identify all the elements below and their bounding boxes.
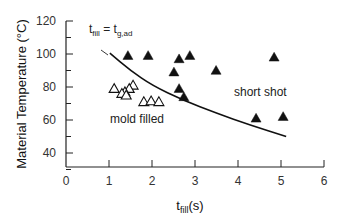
curve-pointer-arrow-icon (101, 50, 108, 55)
x-tick-label: 4 (235, 174, 242, 188)
short-shot-marker (211, 66, 221, 75)
mold-filled-label: mold filled (110, 112, 164, 126)
short-shot-label: short shot (234, 85, 287, 99)
short-shot-marker (278, 112, 288, 121)
short-shot-marker (174, 84, 184, 93)
short-shot-marker (185, 51, 195, 60)
y-axis-title: Material Temperature (°C) (14, 19, 29, 168)
y-tick-label: 40 (43, 146, 57, 160)
y-tick-label: 120 (36, 14, 56, 28)
x-tick-label: 2 (149, 174, 156, 188)
x-tick-label: 1 (106, 174, 113, 188)
short-shot-marker (169, 67, 179, 76)
curve-label: tfill = tg,ad (89, 22, 133, 38)
y-ticks: 406080100120 (36, 14, 73, 170)
mold-filled-marker (109, 84, 119, 93)
y-tick-label: 60 (43, 113, 57, 127)
short-shot-marker (269, 52, 279, 61)
x-tick-label: 6 (321, 174, 328, 188)
short-shot-marker (123, 51, 133, 60)
short-shot-marker (251, 113, 261, 122)
y-tick-label: 80 (43, 80, 57, 94)
x-tick-label: 5 (278, 174, 285, 188)
scatter-chart: 406080100120 0123456 Material Temperatur… (0, 0, 346, 219)
x-tick-label: 3 (192, 174, 199, 188)
x-ticks: 0123456 (63, 160, 328, 188)
short-shot-marker (179, 92, 189, 101)
x-tick-label: 0 (63, 174, 70, 188)
mold-filled-marker (154, 97, 164, 106)
x-axis-title: tfill(s) (176, 198, 203, 215)
y-tick-label: 100 (36, 47, 56, 61)
short-shot-marker (174, 54, 184, 63)
axes: 406080100120 0123456 (36, 14, 328, 188)
short-shot-marker (143, 51, 153, 60)
